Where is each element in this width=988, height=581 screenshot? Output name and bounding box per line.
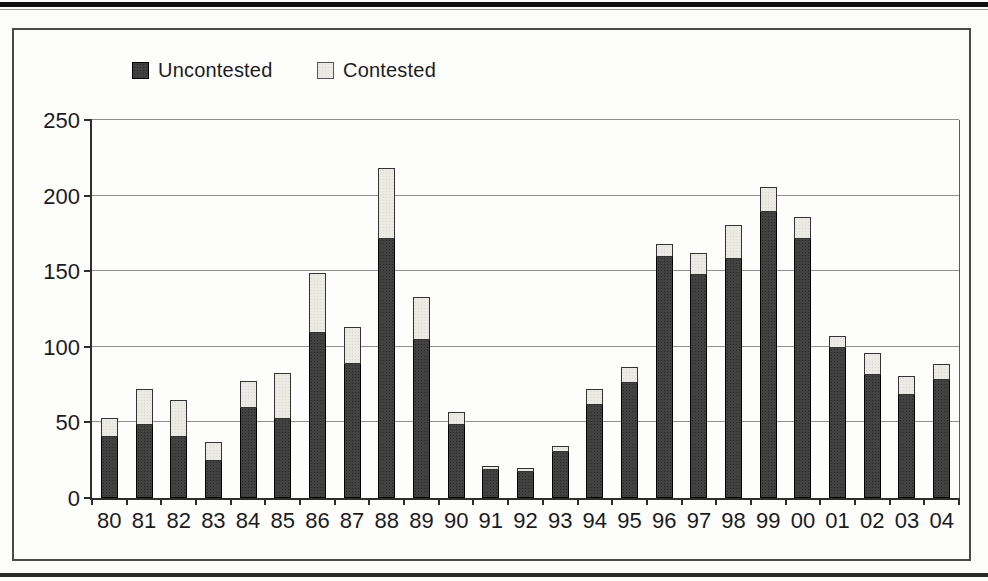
plot-area: 0501001502002508081828384858687888990919…	[90, 120, 960, 500]
x-axis-tick-21	[819, 498, 821, 505]
x-axis-tick-9	[403, 498, 405, 505]
x-axis-label-04: 04	[924, 508, 959, 534]
bar-99-uncontested	[760, 211, 777, 498]
bar-92-contested	[517, 468, 534, 472]
bar-94-uncontested	[586, 404, 603, 498]
x-axis-tick-18	[715, 498, 717, 505]
bar-97-contested	[690, 253, 707, 275]
x-axis-tick-17	[681, 498, 683, 505]
y-axis-tick-150	[84, 270, 92, 272]
x-axis-tick-23	[889, 498, 891, 505]
top-rule-thick	[0, 2, 988, 7]
page: Uncontested Contested 050100150200250808…	[0, 0, 988, 581]
y-axis-label-50: 50	[24, 410, 80, 436]
bar-04-contested	[933, 364, 950, 380]
bar-03-uncontested	[898, 394, 915, 498]
bar-81-contested	[136, 389, 153, 425]
y-axis-tick-200	[84, 195, 92, 197]
bar-88-contested	[378, 168, 395, 239]
x-axis-tick-6	[299, 498, 301, 505]
x-axis-label-86: 86	[300, 508, 335, 534]
x-axis-label-85: 85	[265, 508, 300, 534]
bar-96-contested	[656, 244, 673, 257]
x-axis-label-88: 88	[369, 508, 404, 534]
x-axis-tick-4	[230, 498, 232, 505]
bar-86-contested	[309, 273, 326, 333]
bar-95-contested	[621, 367, 638, 383]
bar-96-uncontested	[656, 256, 673, 498]
y-axis-tick-250	[84, 119, 92, 121]
x-axis-label-02: 02	[855, 508, 890, 534]
y-axis-tick-50	[84, 421, 92, 423]
gridline-150	[92, 270, 959, 271]
x-axis-label-97: 97	[682, 508, 717, 534]
y-axis-label-100: 100	[24, 335, 80, 361]
y-axis-tick-100	[84, 346, 92, 348]
x-axis-label-03: 03	[890, 508, 925, 534]
x-axis-tick-19	[750, 498, 752, 505]
bar-84-uncontested	[240, 407, 257, 498]
x-axis-label-01: 01	[820, 508, 855, 534]
bar-93-uncontested	[552, 451, 569, 498]
bar-95-uncontested	[621, 382, 638, 498]
legend-label-uncontested: Uncontested	[158, 59, 273, 82]
bar-82-uncontested	[170, 436, 187, 498]
bar-80-uncontested	[101, 436, 118, 498]
y-axis-label-200: 200	[24, 184, 80, 210]
bar-82-contested	[170, 400, 187, 437]
bar-97-uncontested	[690, 274, 707, 498]
x-axis-label-81: 81	[127, 508, 162, 534]
chart-frame: Uncontested Contested 050100150200250808…	[12, 28, 971, 561]
x-axis-label-92: 92	[508, 508, 543, 534]
bar-80-contested	[101, 418, 118, 437]
bar-92-uncontested	[517, 471, 534, 498]
bar-87-contested	[344, 327, 361, 364]
bar-85-uncontested	[274, 418, 291, 498]
uncontested-swatch-icon	[132, 62, 149, 79]
bar-90-contested	[448, 412, 465, 425]
bar-01-contested	[829, 336, 846, 348]
bar-02-uncontested	[864, 374, 881, 498]
bar-01-uncontested	[829, 347, 846, 498]
legend-item-contested: Contested	[317, 59, 436, 82]
x-axis-tick-1	[126, 498, 128, 505]
bar-90-uncontested	[448, 424, 465, 498]
bar-02-contested	[864, 353, 881, 375]
x-axis-label-95: 95	[612, 508, 647, 534]
x-axis-label-99: 99	[751, 508, 786, 534]
x-axis-label-98: 98	[716, 508, 751, 534]
x-axis-label-93: 93	[543, 508, 578, 534]
bar-87-uncontested	[344, 363, 361, 498]
x-axis-label-82: 82	[161, 508, 196, 534]
x-axis-label-87: 87	[335, 508, 370, 534]
x-axis-label-90: 90	[439, 508, 474, 534]
x-axis-label-84: 84	[231, 508, 266, 534]
legend-item-uncontested: Uncontested	[132, 59, 273, 82]
x-axis-tick-11	[472, 498, 474, 505]
bar-86-uncontested	[309, 332, 326, 498]
x-axis-label-89: 89	[404, 508, 439, 534]
x-axis-tick-20	[785, 498, 787, 505]
x-axis-tick-7	[334, 498, 336, 505]
bar-91-uncontested	[482, 469, 499, 498]
bar-98-contested	[725, 225, 742, 259]
gridline-200	[92, 195, 959, 196]
bar-03-contested	[898, 376, 915, 395]
y-axis-label-0: 0	[24, 486, 80, 512]
bar-00-contested	[794, 217, 811, 239]
x-axis-tick-15	[611, 498, 613, 505]
bar-89-contested	[413, 297, 430, 340]
x-axis-tick-0	[91, 498, 93, 505]
x-axis-tick-5	[264, 498, 266, 505]
bar-89-uncontested	[413, 339, 430, 498]
bar-99-contested	[760, 187, 777, 212]
gridline-250	[92, 119, 959, 120]
x-axis-tick-8	[368, 498, 370, 505]
x-axis-tick-25	[958, 498, 960, 505]
bar-88-uncontested	[378, 238, 395, 498]
bar-94-contested	[586, 389, 603, 405]
bar-83-uncontested	[205, 460, 222, 498]
x-axis-tick-12	[507, 498, 509, 505]
top-rule-thin	[0, 9, 988, 10]
bottom-rule	[0, 573, 988, 577]
